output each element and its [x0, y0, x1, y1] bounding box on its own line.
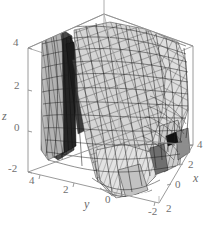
y-tick-4: 4	[29, 175, 35, 186]
y-axis-title: y	[84, 198, 89, 210]
z-tick-4: 4	[13, 37, 19, 48]
y-tick-2: 2	[63, 184, 69, 195]
z-axis-title: z	[2, 110, 7, 122]
x-tick-4: 4	[197, 139, 203, 150]
z-tick-2: 2	[14, 80, 20, 91]
surface-mesh	[41, 22, 190, 198]
z-tick-0: 0	[14, 122, 20, 133]
z-tick-minus-2: -2	[8, 163, 17, 174]
y-tick-minus-2: -2	[148, 206, 157, 217]
x-axis-title: x	[193, 172, 198, 184]
y-tick-0: 0	[105, 194, 111, 205]
surface-plot-figure: 4 2 0 -2 z 4 2 0 -2 y 4 2 0 2 x	[0, 0, 216, 227]
x-tick-2-near: 2	[166, 203, 172, 214]
x-tick-0: 0	[175, 179, 181, 190]
surface-panel-left	[41, 26, 64, 160]
x-tick-2: 2	[188, 159, 194, 170]
